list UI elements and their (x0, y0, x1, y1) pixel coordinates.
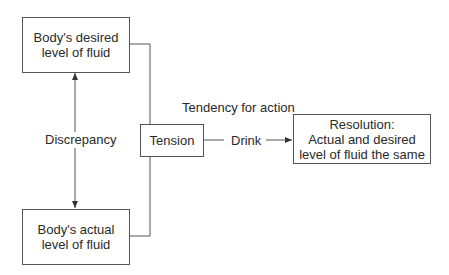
desired-line-2: level of fluid (34, 45, 119, 60)
resolution-box: Resolution: Actual and desired level of … (293, 114, 431, 164)
actual-connector (130, 156, 150, 236)
desired-line-1: Body's desired (34, 30, 119, 45)
actual-line-2: level of fluid (38, 237, 115, 252)
actual-line-1: Body's actual (38, 222, 115, 237)
discrepancy-label: Discrepancy (44, 132, 118, 147)
desired-level-box: Body's desired level of fluid (22, 17, 130, 73)
tension-box: Tension (140, 124, 204, 157)
drink-label: Drink (231, 133, 261, 148)
desired-connector (130, 44, 150, 124)
resolution-line-3: level of fluid the same (299, 147, 425, 162)
tension-label: Tension (150, 133, 195, 148)
tendency-label: Tendency for action (182, 100, 295, 115)
resolution-line-2: Actual and desired (299, 132, 425, 147)
resolution-line-1: Resolution: (299, 117, 425, 132)
actual-level-box: Body's actual level of fluid (22, 209, 130, 265)
